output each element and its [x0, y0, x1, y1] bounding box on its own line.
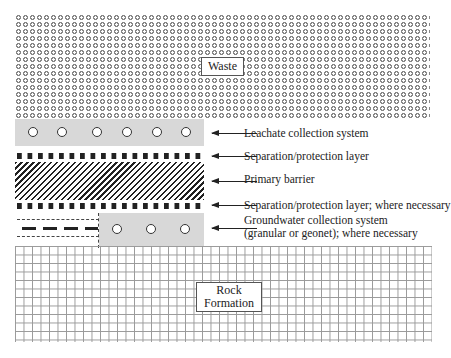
geonet-bottom-edge: [17, 236, 99, 238]
caption-separation-top: Separation/protection layer: [244, 150, 369, 162]
caption-groundwater-line1: Groundwater collection system: [244, 214, 388, 226]
pipe-icon: [28, 127, 38, 137]
caption-groundwater-line2: (granular or geonet); where necessary: [244, 227, 418, 239]
pipe-icon: [146, 224, 156, 234]
pipe-icon: [57, 127, 67, 137]
pipe-icon: [180, 224, 190, 234]
waste-label: Waste: [201, 57, 244, 76]
pipe-icon: [92, 127, 102, 137]
pipe-icon: [122, 127, 132, 137]
groundwater-collection-layer: [99, 213, 204, 246]
pipe-icon: [152, 127, 162, 137]
rock-formation-label: Rock Formation: [196, 282, 262, 312]
caption-primary-barrier: Primary barrier: [244, 173, 315, 185]
separation-layer-top: [17, 153, 205, 159]
caption-leachate: Leachate collection system: [244, 127, 369, 139]
caption-separation-bottom: Separation/protection layer; where neces…: [244, 199, 451, 211]
pipe-icon: [112, 224, 122, 234]
pipe-icon: [181, 127, 191, 137]
geonet-top-edge: [17, 219, 99, 221]
separation-layer-bottom: [17, 203, 205, 209]
geonet-layer: [22, 227, 98, 230]
rock-label-line2: Formation: [204, 297, 254, 310]
primary-barrier-layer: [15, 162, 204, 200]
leachate-collection-layer: [15, 119, 204, 146]
